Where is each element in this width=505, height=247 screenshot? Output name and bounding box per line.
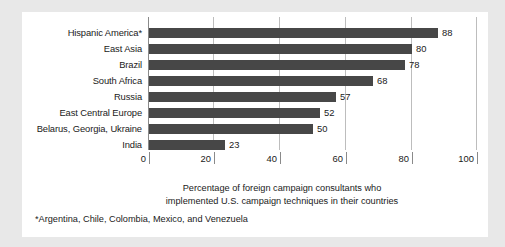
tick-mark-0 [149, 152, 150, 164]
chart-caption: Percentage of foreign campaign consultan… [82, 182, 482, 207]
gridline-100 [476, 17, 477, 150]
category-label-south-africa: South Africa [93, 76, 142, 86]
category-label-east-asia: East Asia [104, 44, 142, 54]
category-label-russia: Russia [114, 92, 142, 102]
bar-east-central-europe[interactable] [149, 108, 320, 118]
category-label-brazil: Brazil [119, 60, 142, 70]
bar-value-hispanic-america: 88 [442, 28, 452, 38]
caption-line-1: Percentage of foreign campaign consultan… [82, 182, 482, 195]
bar-value-belarus-georgia-ukraine: 50 [317, 124, 327, 134]
tick-mark-60 [346, 152, 347, 164]
chart-area: Hispanic America* East Asia Brazil South… [22, 12, 488, 172]
tick-label-40: 40 [260, 153, 277, 164]
bar-east-asia[interactable] [149, 44, 412, 54]
tick-mark-40 [280, 152, 281, 164]
x-axis: 0 20 40 60 80 100 [148, 152, 488, 174]
bar-value-india: 23 [229, 140, 239, 150]
tick-mark-20 [214, 152, 215, 164]
tick-label-100: 100 [453, 153, 474, 164]
tick-mark-100 [477, 152, 478, 164]
tick-label-80: 80 [392, 153, 409, 164]
bar-value-south-africa: 68 [377, 76, 387, 86]
tick-mark-80 [412, 152, 413, 164]
bar-belarus-georgia-ukraine[interactable] [149, 124, 313, 134]
bar-india[interactable] [149, 140, 225, 150]
bar-hispanic-america[interactable] [149, 28, 438, 38]
tick-label-20: 20 [194, 153, 211, 164]
tick-label-0: 0 [129, 153, 146, 164]
bar-value-russia: 57 [340, 92, 350, 102]
chart-figure-card: Hispanic America* East Asia Brazil South… [22, 12, 488, 237]
bar-south-africa[interactable] [149, 76, 373, 86]
tick-label-60: 60 [326, 153, 343, 164]
caption-line-2: implemented U.S. campaign techniques in … [82, 195, 482, 208]
category-label-hispanic-america: Hispanic America* [68, 28, 142, 38]
bar-russia[interactable] [149, 92, 336, 102]
category-label-belarus-georgia-ukraine: Belarus, Georgia, Ukraine [37, 124, 142, 134]
bar-value-east-central-europe: 52 [324, 108, 334, 118]
bar-brazil[interactable] [149, 60, 405, 70]
chart-footnote: *Argentina, Chile, Colombia, Mexico, and… [35, 213, 248, 225]
category-axis-labels: Hispanic America* East Asia Brazil South… [22, 12, 142, 157]
bar-value-brazil: 78 [409, 60, 419, 70]
category-label-east-central-europe: East Central Europe [59, 108, 142, 118]
plot-area: 88 80 78 68 57 52 50 23 [148, 17, 477, 150]
category-label-india: India [122, 140, 142, 150]
bar-value-east-asia: 80 [416, 44, 426, 54]
